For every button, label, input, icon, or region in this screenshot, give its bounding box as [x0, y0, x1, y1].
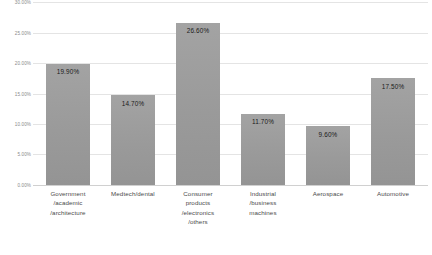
x-axis-category-label: Medtech/dental — [98, 189, 168, 198]
y-axis-tick-label: 0.00% — [1, 183, 31, 188]
y-axis: 30.00% 25.00% 20.00% 15.00% 10.00% 5.00%… — [0, 2, 31, 185]
x-axis-category-label: Automotive — [358, 189, 428, 198]
x-axis-category-line: Government — [33, 189, 103, 198]
y-axis-tick-label: 10.00% — [1, 122, 31, 127]
bar[interactable] — [176, 23, 220, 185]
bar-data-label: 17.50% — [382, 83, 405, 91]
x-axis: Government /academic /architecture Medte… — [33, 189, 428, 253]
x-axis-category-label: Industrial /business machines — [228, 189, 298, 217]
x-axis-category-line: /others — [163, 217, 233, 226]
x-axis-category-label: Government /academic /architecture — [33, 189, 103, 217]
bar[interactable] — [46, 64, 90, 185]
bar[interactable] — [111, 95, 155, 185]
gridline — [33, 63, 428, 64]
x-axis-category-line: Automotive — [358, 189, 428, 198]
bar-data-label: 19.90% — [57, 68, 80, 76]
bar-data-label: 9.60% — [319, 131, 338, 139]
x-axis-category-label: Aerospace — [293, 189, 363, 198]
y-axis-tick-label: 20.00% — [1, 60, 31, 65]
y-axis-tick-label: 5.00% — [1, 152, 31, 157]
x-axis-category-label: Consumer products /electronics /others — [163, 189, 233, 227]
x-axis-category-line: Industrial — [228, 189, 298, 198]
bar-slot: 9.60% — [306, 2, 350, 185]
bar-data-label: 26.60% — [187, 27, 210, 35]
x-axis-category-line: /architecture — [33, 208, 103, 217]
bar-slot: 17.50% — [371, 2, 415, 185]
bar-slot: 14.70% — [111, 2, 155, 185]
bar-slot: 11.70% — [241, 2, 285, 185]
y-axis-tick-label: 25.00% — [1, 30, 31, 35]
bar-slot: 19.90% — [46, 2, 90, 185]
gridline — [33, 154, 428, 155]
bar-data-label: 11.70% — [252, 118, 274, 126]
plot-area: 19.90% 14.70% 26.60% 11.70% 9.60% 17.50% — [33, 2, 428, 185]
x-axis-category-line: Aerospace — [293, 189, 363, 198]
y-axis-tick-label: 30.00% — [1, 0, 31, 5]
bar[interactable] — [371, 78, 415, 185]
gridline — [33, 124, 428, 125]
gridline — [33, 94, 428, 95]
gridline — [33, 2, 428, 3]
x-axis-line — [33, 185, 428, 186]
x-axis-category-line: /electronics — [163, 208, 233, 217]
x-axis-category-line: products — [163, 198, 233, 207]
x-axis-category-line: machines — [228, 208, 298, 217]
x-axis-category-line: /academic — [33, 198, 103, 207]
bar-slot: 26.60% — [176, 2, 220, 185]
bar-chart: 30.00% 25.00% 20.00% 15.00% 10.00% 5.00%… — [0, 0, 432, 255]
bar-data-label: 14.70% — [122, 100, 145, 108]
x-axis-category-line: Medtech/dental — [98, 189, 168, 198]
x-axis-category-line: Consumer — [163, 189, 233, 198]
y-axis-tick-label: 15.00% — [1, 91, 31, 96]
x-axis-category-line: /business — [228, 198, 298, 207]
gridline — [33, 33, 428, 34]
